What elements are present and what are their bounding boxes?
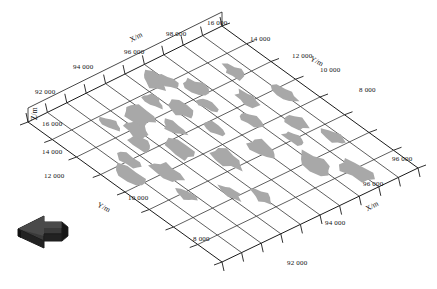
tick-y-top bbox=[320, 94, 328, 97]
grid-line-v bbox=[174, 133, 370, 228]
axis-tick-label: 8 000 bbox=[359, 86, 376, 94]
plot-canvas bbox=[0, 0, 437, 289]
axis-title: Z/m bbox=[30, 108, 39, 121]
tick-x-top bbox=[65, 94, 67, 103]
tick-x-top bbox=[45, 103, 47, 112]
data-patch bbox=[148, 162, 185, 182]
north-arrow-indicator bbox=[18, 216, 68, 248]
axis-tick-label: 12 000 bbox=[44, 172, 64, 180]
tick-x-bottom bbox=[261, 243, 263, 252]
tick-y-bottom bbox=[20, 122, 28, 125]
tick-x-top bbox=[201, 27, 203, 36]
tick-y-bottom bbox=[93, 175, 101, 178]
axis-tick-label: 10 000 bbox=[128, 194, 148, 202]
data-patch bbox=[99, 117, 120, 132]
data-patch bbox=[271, 84, 300, 101]
figure-container: 92 00094 00096 00098 00016 00014 00012 0… bbox=[0, 0, 437, 289]
data-patch bbox=[204, 121, 225, 137]
tick-y-top bbox=[345, 112, 353, 115]
tick-x-bottom bbox=[418, 168, 420, 177]
axis-tick-label: 96 000 bbox=[392, 155, 412, 163]
tick-x-top bbox=[84, 84, 86, 93]
data-patch bbox=[183, 78, 209, 96]
tick-y-top bbox=[369, 130, 377, 133]
tick-y-bottom bbox=[44, 140, 52, 143]
tick-x-bottom bbox=[281, 234, 283, 243]
data-patch bbox=[164, 118, 188, 135]
axis-tick-label: 8 000 bbox=[193, 235, 210, 243]
data-patch bbox=[168, 99, 194, 118]
data-patch bbox=[165, 138, 195, 161]
data-patch bbox=[250, 189, 272, 205]
z-axis-wall bbox=[28, 12, 222, 122]
tick-y-bottom bbox=[166, 227, 174, 230]
tick-x-bottom bbox=[242, 253, 244, 262]
axis-tick-label: 98 000 bbox=[166, 30, 186, 38]
tick-y-bottom bbox=[214, 262, 222, 265]
tick-y-top bbox=[296, 76, 304, 79]
tick-x-top bbox=[123, 65, 125, 74]
data-patch bbox=[284, 115, 309, 130]
tick-y-bottom bbox=[117, 192, 125, 195]
grid-line-v bbox=[125, 97, 320, 192]
axis-tick-label: 96 000 bbox=[124, 48, 144, 56]
axis-tick-label: 16 000 bbox=[42, 120, 62, 128]
tick-x-bottom bbox=[320, 215, 322, 224]
tick-x-top bbox=[142, 55, 144, 64]
tick-y-bottom bbox=[69, 157, 77, 160]
tick-y-top bbox=[271, 59, 279, 62]
tick-y-top bbox=[418, 165, 426, 168]
axis-tick-label: 14 000 bbox=[250, 35, 270, 43]
data-patch bbox=[222, 64, 245, 81]
data-patch bbox=[175, 188, 198, 200]
axis-tick-label: 16 000 bbox=[207, 19, 227, 27]
tick-x-top bbox=[162, 46, 164, 55]
axis-tick-label: 96 000 bbox=[363, 180, 383, 188]
data-patch bbox=[240, 113, 265, 128]
data-patch bbox=[141, 94, 163, 110]
data-patch bbox=[217, 184, 241, 201]
tick-y-bottom bbox=[141, 210, 149, 213]
axis-tick-label: 94 000 bbox=[73, 63, 93, 71]
axis-tick-label: 14 000 bbox=[42, 148, 62, 156]
data-patch bbox=[209, 148, 242, 171]
tick-x-bottom bbox=[398, 177, 400, 186]
axis-tick-label: 94 000 bbox=[325, 219, 345, 227]
tick-x-bottom bbox=[359, 196, 361, 205]
tick-y-top bbox=[394, 147, 402, 150]
grid-mesh bbox=[28, 12, 418, 262]
tick-x-bottom bbox=[340, 206, 342, 215]
axis-tick-label: 92 000 bbox=[35, 88, 55, 96]
tick-x-bottom bbox=[379, 187, 381, 196]
axis-tick-label: 92 000 bbox=[287, 259, 307, 267]
axis-tick-label: 10 000 bbox=[320, 66, 340, 74]
tick-x-top bbox=[104, 75, 106, 84]
tick-x-bottom bbox=[222, 262, 224, 271]
tick-x-bottom bbox=[300, 224, 302, 233]
tick-y-bottom bbox=[190, 245, 198, 248]
